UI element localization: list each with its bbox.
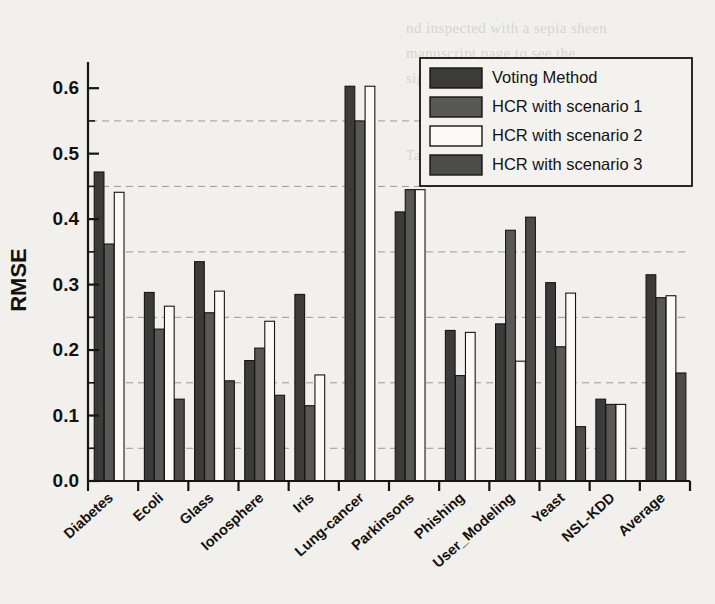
bar — [345, 86, 355, 481]
bar — [606, 404, 616, 481]
bar — [355, 121, 365, 481]
legend-swatch — [430, 126, 482, 146]
x-axis-ticks: DiabetesEcoliGlassIonosphereIrisLung-can… — [60, 481, 690, 571]
bar — [245, 361, 255, 481]
x-tick-label: NSL-KDD — [559, 489, 618, 545]
bar — [305, 406, 315, 481]
bar — [496, 324, 506, 481]
x-tick-label: Iris — [290, 489, 317, 515]
bar — [315, 375, 325, 481]
bar — [255, 348, 265, 481]
x-tick-label: Ecoli — [130, 489, 166, 524]
legend-label: Voting Method — [492, 68, 598, 86]
y-tick-label: 0.1 — [53, 405, 80, 426]
bar — [546, 283, 556, 481]
bar — [556, 347, 566, 481]
bar — [455, 376, 465, 481]
bar — [596, 399, 606, 481]
bar — [415, 190, 425, 481]
y-axis-ticks: 0.00.10.20.30.40.50.6 — [53, 77, 99, 491]
y-tick-label: 0.0 — [53, 470, 79, 491]
x-tick-label: Glass — [176, 489, 216, 527]
bar — [566, 293, 576, 481]
bar — [295, 294, 305, 481]
rmse-grouped-bar-chart: 0.00.10.20.30.40.50.6 DiabetesEcoliGlass… — [0, 0, 715, 604]
bar — [526, 217, 536, 481]
y-tick-label: 0.5 — [53, 143, 80, 164]
bar — [275, 395, 285, 481]
bar — [215, 291, 225, 481]
bar — [656, 298, 666, 481]
y-tick-label: 0.2 — [53, 339, 79, 360]
legend-swatch — [430, 68, 482, 88]
y-tick-label: 0.4 — [53, 208, 80, 229]
legend-label: HCR with scenario 3 — [492, 155, 642, 173]
x-tick-label: Average — [615, 489, 668, 539]
bar — [195, 262, 205, 481]
bar — [646, 275, 656, 481]
chart-legend: Voting MethodHCR with scenario 1HCR with… — [420, 58, 692, 186]
bar-chart-figure: 0.00.10.20.30.40.50.6 DiabetesEcoliGlass… — [0, 0, 715, 604]
bar — [666, 296, 676, 481]
legend-label: HCR with scenario 2 — [492, 126, 642, 144]
bar — [676, 373, 686, 481]
bar — [405, 190, 415, 481]
bar — [516, 361, 526, 481]
bar — [174, 399, 184, 481]
bar — [576, 427, 586, 481]
bar — [465, 332, 475, 481]
bar — [225, 381, 235, 481]
bar — [365, 86, 375, 481]
y-tick-label: 0.3 — [53, 274, 79, 295]
bar — [154, 329, 164, 481]
legend-swatch — [430, 155, 482, 175]
bar — [395, 212, 405, 481]
bar — [144, 292, 154, 481]
bar — [506, 230, 516, 481]
bar — [114, 192, 124, 481]
x-tick-label: Yeast — [529, 489, 568, 526]
x-tick-label: Diabetes — [60, 489, 116, 541]
bar — [445, 330, 455, 481]
bar — [104, 244, 114, 481]
legend-swatch — [430, 97, 482, 117]
bar — [205, 313, 215, 481]
bar — [616, 404, 626, 481]
y-tick-label: 0.6 — [53, 77, 79, 98]
legend-label: HCR with scenario 1 — [492, 97, 642, 115]
bar — [164, 306, 174, 481]
bar — [265, 321, 275, 481]
y-axis-title: RMSE — [6, 248, 31, 312]
